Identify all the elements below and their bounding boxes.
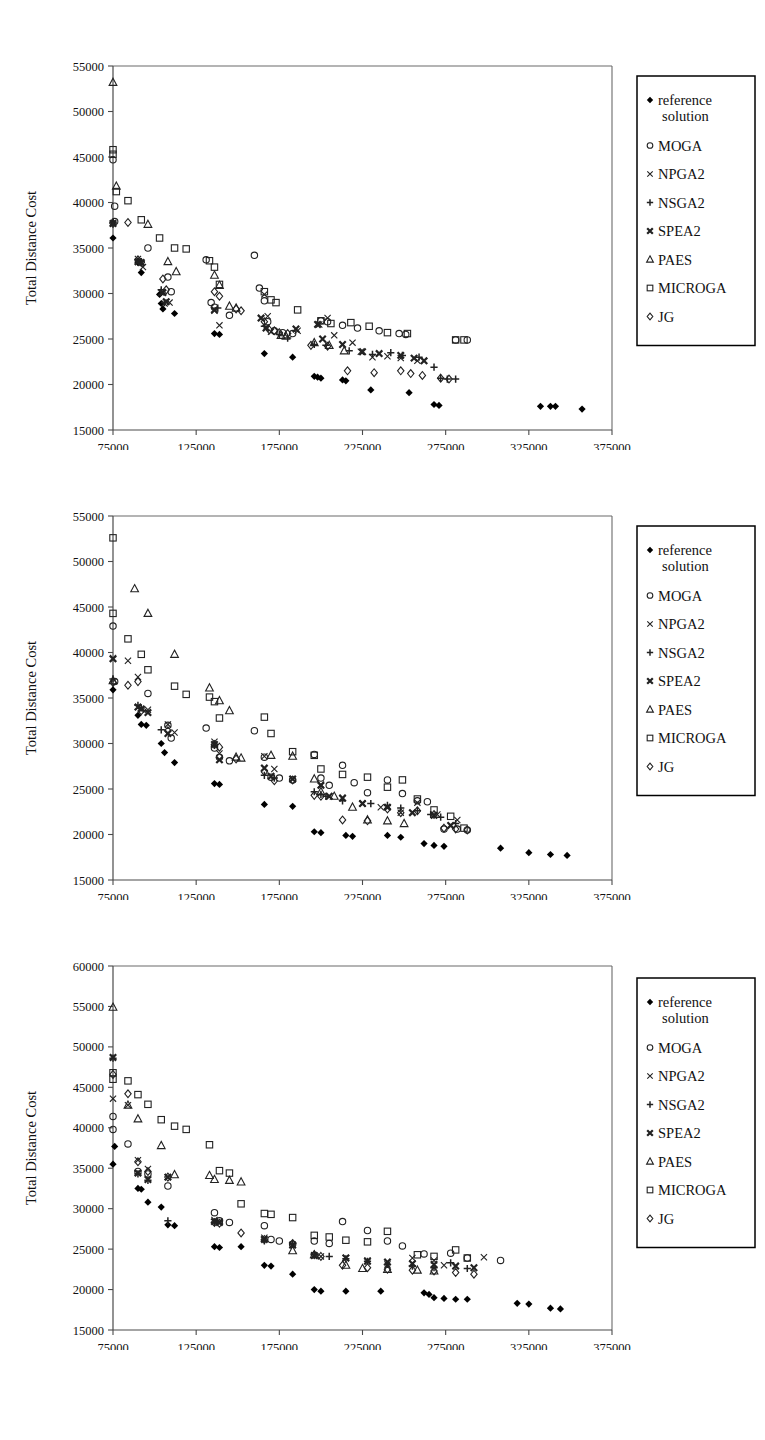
x-tick-label: 325000: [510, 1341, 548, 1350]
marker-open-diamond: [371, 369, 377, 377]
x-tick-label: 325000: [510, 441, 548, 450]
chart-panel-2: 1500020000250003000035000400004500050000…: [0, 450, 765, 900]
figure-page: 1500020000250003000035000400004500050000…: [0, 0, 765, 1440]
marker-x-cross: [216, 322, 222, 328]
legend-label: JG: [658, 309, 675, 325]
marker-open-triangle: [211, 271, 219, 278]
marker-filled-diamond: [557, 1305, 564, 1312]
marker-filled-diamond: [525, 849, 532, 856]
marker-open-square: [384, 1228, 390, 1234]
y-tick-label: 55000: [73, 1000, 104, 1014]
marker-open-circle: [318, 775, 324, 781]
x-tick-label: 175000: [261, 441, 299, 450]
x-tick-label: 125000: [177, 1341, 215, 1350]
x-tick-label: 175000: [261, 1341, 299, 1350]
marker-open-circle: [226, 758, 232, 764]
marker-filled-diamond: [578, 405, 585, 412]
legend-item-microga[interactable]: MICROGA: [647, 280, 727, 296]
marker-filled-diamond: [317, 1288, 324, 1295]
y-tick-label: 35000: [73, 692, 104, 706]
marker-open-diamond: [125, 219, 131, 227]
marker-open-triangle: [216, 697, 224, 704]
marker-filled-diamond: [311, 1286, 318, 1293]
marker-open-square: [261, 1210, 267, 1216]
marker-filled-diamond: [161, 749, 168, 756]
marker-plus: [164, 1217, 171, 1224]
marker-filled-diamond: [143, 722, 150, 729]
marker-open-square: [145, 667, 151, 673]
marker-x-cross: [384, 353, 390, 359]
legend-label: PAES: [658, 702, 692, 718]
scatter-plot-3: 1500020000250003000035000400004500050000…: [0, 900, 765, 1350]
y-tick-label: 15000: [73, 424, 104, 438]
marker-open-diamond: [339, 816, 345, 824]
marker-filled-diamond: [216, 1244, 223, 1251]
marker-open-circle: [452, 337, 458, 343]
x-tick-label: 375000: [593, 1341, 631, 1350]
marker-open-circle: [399, 1243, 405, 1249]
legend-label-cont: solution: [662, 108, 709, 124]
legend-label: NPGA2: [658, 166, 705, 182]
marker-open-triangle: [206, 684, 214, 691]
marker-open-circle: [226, 312, 232, 318]
legend-item-microga[interactable]: MICROGA: [647, 730, 727, 746]
y-tick-label: 20000: [73, 828, 104, 842]
marker-open-circle: [399, 790, 405, 796]
legend-label: JG: [658, 759, 675, 775]
legend: referencesolutionMOGANPGA2NSGA2SPEA2PAES…: [637, 526, 755, 796]
marker-open-circle: [354, 325, 360, 331]
marker-filled-diamond: [261, 1262, 268, 1269]
legend: referencesolutionMOGANPGA2NSGA2SPEA2PAES…: [637, 978, 755, 1248]
y-tick-label: 50000: [73, 1040, 104, 1054]
marker-open-circle: [145, 245, 151, 251]
x-tick-label: 325000: [510, 891, 548, 900]
marker-filled-diamond: [525, 1301, 532, 1308]
legend-label: NSGA2: [658, 1097, 705, 1113]
series-reference-solution: [109, 219, 585, 413]
marker-open-square: [447, 813, 453, 819]
marker-open-circle: [339, 762, 345, 768]
legend-label: SPEA2: [658, 673, 701, 689]
x-tick-label: 75000: [97, 1341, 128, 1350]
marker-open-square: [211, 264, 217, 270]
legend-label: MICROGA: [658, 280, 727, 296]
legend-label: MICROGA: [658, 730, 727, 746]
scatter-plot-2: 1500020000250003000035000400004500050000…: [0, 450, 765, 900]
marker-open-triangle: [267, 751, 275, 758]
marker-x-cross: [378, 804, 384, 810]
legend-label: NSGA2: [658, 195, 705, 211]
marker-filled-diamond: [440, 1295, 447, 1302]
marker-filled-diamond: [435, 402, 442, 409]
marker-x-cross: [331, 332, 337, 338]
marker-filled-diamond: [171, 759, 178, 766]
y-tick-label: 40000: [73, 1121, 104, 1135]
marker-open-circle: [464, 1255, 470, 1261]
marker-open-square: [366, 323, 372, 329]
series-npga2: [110, 1096, 487, 1270]
marker-filled-diamond: [138, 269, 145, 276]
marker-filled-diamond: [159, 305, 166, 312]
marker-filled-diamond: [267, 1262, 274, 1269]
marker-open-triangle: [226, 707, 234, 714]
marker-open-diamond: [408, 370, 414, 378]
y-tick-label: 25000: [73, 1243, 104, 1257]
marker-filled-diamond: [552, 403, 559, 410]
marker-open-circle: [226, 1219, 232, 1225]
marker-filled-diamond: [349, 833, 356, 840]
legend-item-microga[interactable]: MICROGA: [647, 1182, 727, 1198]
marker-x-cross: [481, 1254, 487, 1260]
marker-open-triangle: [131, 585, 139, 592]
marker-open-triangle: [144, 220, 152, 227]
x-tick-label: 275000: [427, 1341, 465, 1350]
marker-filled-diamond: [547, 851, 554, 858]
marker-open-circle: [364, 789, 370, 795]
y-tick-label: 60000: [73, 960, 104, 974]
marker-open-square: [318, 766, 324, 772]
data-layer: [109, 78, 586, 412]
marker-plus: [367, 800, 374, 807]
legend-label: MOGA: [658, 588, 703, 604]
legend-label: NPGA2: [658, 616, 705, 632]
legend-label: JG: [658, 1211, 675, 1227]
marker-filled-diamond: [464, 1296, 471, 1303]
series-moga: [110, 157, 471, 344]
